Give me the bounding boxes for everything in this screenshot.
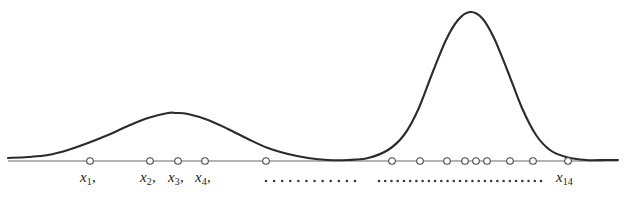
tick-label-x14-base: x	[556, 169, 563, 185]
right-ellipsis-dots-dot	[490, 180, 493, 183]
right-ellipsis-dots-dot	[509, 180, 512, 183]
right-ellipsis-dots-dot	[465, 180, 468, 183]
left-ellipsis-dots-dot	[313, 180, 316, 183]
right-ellipsis-dots-dot	[477, 180, 480, 183]
right-ellipsis-dots-dot	[452, 180, 455, 183]
right-ellipsis-dots-dot	[384, 180, 387, 183]
right-ellipsis-dots-dot	[502, 180, 505, 183]
observation-marker	[565, 158, 572, 165]
observation-marker	[147, 158, 154, 165]
observation-marker	[507, 158, 514, 165]
density-curve	[8, 12, 618, 160]
right-ellipsis-dots-dot	[521, 180, 524, 183]
observation-marker	[202, 158, 209, 165]
left-ellipsis-dots-dot	[354, 180, 357, 183]
observation-marker	[263, 158, 270, 165]
right-ellipsis-dots-dot	[421, 180, 424, 183]
ellipsis-dots-group	[265, 180, 543, 183]
observation-marker	[484, 158, 491, 165]
right-ellipsis-dots-dot	[446, 180, 449, 183]
observation-marker	[175, 158, 182, 165]
tick-label-x2: x2,	[140, 170, 156, 185]
observation-marker	[462, 158, 469, 165]
tick-label-x2-subscript: 2	[147, 176, 152, 187]
right-ellipsis-dots-dot	[390, 180, 393, 183]
left-ellipsis-dots-dot	[281, 180, 284, 183]
tick-label-x4-subscript: 4	[202, 176, 207, 187]
tick-label-x3-comma: ,	[180, 169, 184, 185]
tick-label-x1-base: x	[80, 169, 87, 185]
right-ellipsis-dots-dot	[434, 180, 437, 183]
right-ellipsis-dots-dot	[484, 180, 487, 183]
left-ellipsis-dots-dot	[321, 180, 324, 183]
left-ellipsis-dots-dot	[297, 180, 300, 183]
right-ellipsis-dots-dot	[527, 180, 530, 183]
left-ellipsis-dots-dot	[346, 180, 349, 183]
tick-label-x2-comma: ,	[152, 169, 156, 185]
right-ellipsis-dots-dot	[533, 180, 536, 183]
right-ellipsis-dots-dot	[396, 180, 399, 183]
density-figure: x1, x2, x3, x4, x14	[0, 0, 626, 198]
right-ellipsis-dots-dot	[378, 180, 381, 183]
tick-label-x3-subscript: 3	[175, 176, 180, 187]
right-ellipsis-dots-dot	[403, 180, 406, 183]
right-ellipsis-dots-dot	[515, 180, 518, 183]
right-ellipsis-dots-dot	[428, 180, 431, 183]
tick-label-x14-subscript: 14	[563, 176, 573, 187]
right-ellipsis-dots-dot	[540, 180, 543, 183]
observation-marker	[530, 158, 537, 165]
right-ellipsis-dots-dot	[409, 180, 412, 183]
tick-label-x3: x3,	[168, 170, 184, 185]
curve-group	[8, 12, 618, 160]
tick-label-x4-base: x	[195, 169, 202, 185]
tick-label-x1-comma: ,	[92, 169, 96, 185]
left-ellipsis-dots-dot	[289, 180, 292, 183]
left-ellipsis-dots-dot	[338, 180, 341, 183]
observation-marker	[87, 158, 94, 165]
right-ellipsis-dots-dot	[496, 180, 499, 183]
tick-label-x3-base: x	[168, 169, 175, 185]
right-ellipsis-dots-dot	[459, 180, 462, 183]
observation-marker	[473, 158, 480, 165]
tick-label-x4: x4,	[195, 170, 211, 185]
observation-marker	[389, 158, 396, 165]
tick-label-x1: x1,	[80, 170, 96, 185]
tick-label-x14: x14	[556, 170, 573, 185]
left-ellipsis-dots-dot	[305, 180, 308, 183]
tick-label-x1-subscript: 1	[87, 176, 92, 187]
left-ellipsis-dots-dot	[265, 180, 268, 183]
right-ellipsis-dots-dot	[440, 180, 443, 183]
right-ellipsis-dots-dot	[415, 180, 418, 183]
right-ellipsis-dots-dot	[471, 180, 474, 183]
left-ellipsis-dots-dot	[273, 180, 276, 183]
tick-label-x4-comma: ,	[207, 169, 211, 185]
observation-marker	[444, 158, 451, 165]
left-ellipsis-dots-dot	[329, 180, 332, 183]
tick-label-x2-base: x	[140, 169, 147, 185]
observation-marker	[417, 158, 424, 165]
